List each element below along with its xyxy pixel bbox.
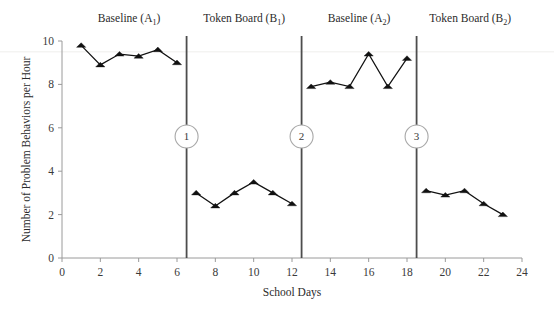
y-axis-tick-label: 8 [48, 78, 54, 90]
figure-container: 0246810024681012141618202224 Baseline (A… [0, 0, 554, 312]
y-axis-tick-label: 6 [48, 122, 54, 134]
y-axis-tick-label: 0 [48, 252, 54, 264]
x-axis-tick-label: 14 [325, 266, 337, 278]
y-axis-title: Number of Problem Behaviors per Hour [20, 57, 33, 243]
x-axis-tick-label: 16 [363, 266, 375, 278]
phase-marker-number: 2 [299, 130, 305, 142]
abab-line-chart: 0246810024681012141618202224 Baseline (A… [0, 0, 554, 312]
phase-marker-number: 1 [184, 130, 190, 142]
x-axis-tick-label: 4 [136, 266, 142, 278]
x-axis-tick-label: 10 [248, 266, 260, 278]
x-axis-tick-label: 20 [440, 266, 452, 278]
x-axis-tick-label: 22 [478, 266, 490, 278]
phase-marker-3: 3 [405, 125, 428, 148]
x-axis-title: School Days [263, 286, 322, 299]
x-axis-tick-label: 6 [174, 266, 180, 278]
x-axis-tick-label: 24 [516, 266, 528, 278]
y-axis-tick-label: 4 [48, 165, 54, 177]
phase-marker-1: 1 [175, 125, 198, 148]
phase-marker-2: 2 [290, 125, 313, 148]
x-axis-tick-label: 18 [401, 266, 413, 278]
y-axis-tick-label: 10 [43, 35, 55, 47]
x-axis-tick-label: 0 [59, 266, 65, 278]
phase-marker-number: 3 [414, 130, 420, 142]
x-axis-tick-label: 2 [97, 266, 103, 278]
x-axis-tick-label: 12 [286, 266, 298, 278]
x-axis-tick-label: 8 [212, 266, 218, 278]
y-axis-tick-label: 2 [48, 209, 54, 221]
